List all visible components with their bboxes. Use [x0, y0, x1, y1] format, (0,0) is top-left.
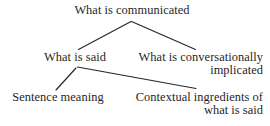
node-what-is-communicated-line-1: What is communicated [72, 4, 192, 17]
communication-tree-diagram: What is communicated What is said What i… [0, 0, 270, 126]
node-contextual-ingredients-of-what-is-said: Contextual ingredients of what is said [131, 91, 263, 117]
node-what-is-conversationally-implicated: What is conversationally implicated [132, 51, 263, 77]
node-what-is-said: What is said [40, 51, 110, 64]
edge-root-to-what-is-said [79, 22, 132, 50]
node-contextual-ingredients-line-2: what is said [131, 104, 263, 117]
edge-what-is-said-to-sentence-meaning [56, 68, 76, 90]
node-what-is-communicated: What is communicated [72, 4, 192, 17]
node-sentence-meaning: Sentence meaning [8, 91, 108, 104]
node-sentence-meaning-line-1: Sentence meaning [8, 91, 108, 104]
node-what-is-conversationally-implicated-line-2: implicated [132, 64, 263, 77]
node-what-is-said-line-1: What is said [40, 51, 110, 64]
edge-root-to-conversationally-implicated [132, 22, 196, 50]
